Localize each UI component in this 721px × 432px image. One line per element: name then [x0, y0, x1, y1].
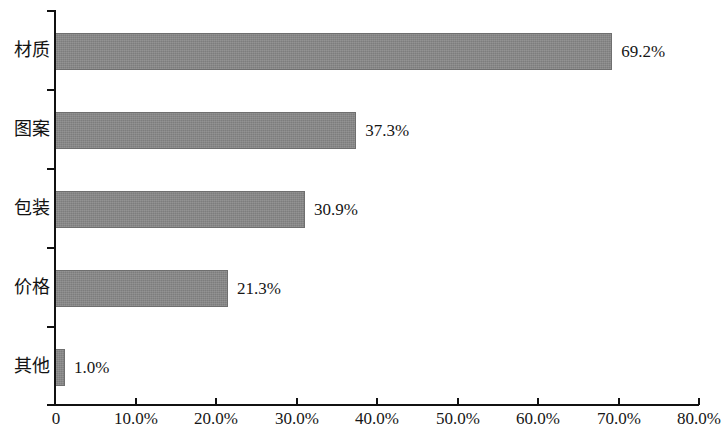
- category-label-1: 图案: [0, 120, 50, 138]
- bar-value-3: 21.3%: [237, 280, 281, 297]
- x-axis-label-8: 80.0%: [677, 410, 721, 427]
- x-axis-label-5: 50.0%: [436, 410, 480, 427]
- bar-4[interactable]: [56, 349, 65, 386]
- x-axis-label-4: 40.0%: [355, 410, 399, 427]
- y-axis-tick: [47, 10, 55, 12]
- x-axis-tick: [698, 398, 700, 405]
- x-axis-label-6: 60.0%: [516, 410, 560, 427]
- bar-3[interactable]: [56, 270, 228, 307]
- x-axis-tick: [296, 398, 298, 405]
- bar-value-4: 1.0%: [74, 359, 109, 376]
- bar-value-1: 37.3%: [365, 122, 409, 139]
- category-label-4: 其他: [0, 357, 50, 375]
- bar-1[interactable]: [56, 112, 356, 149]
- x-axis-label-3: 30.0%: [275, 410, 319, 427]
- bar-value-0: 69.2%: [621, 43, 665, 60]
- x-axis-tick: [54, 398, 56, 405]
- x-axis-tick: [457, 398, 459, 405]
- y-axis-tick: [47, 326, 55, 328]
- bar-0[interactable]: [56, 33, 612, 70]
- x-axis-tick: [537, 398, 539, 405]
- y-axis-tick: [47, 89, 55, 91]
- bar-2[interactable]: [56, 191, 305, 228]
- x-axis-label-7: 70.0%: [597, 410, 641, 427]
- bar-value-2: 30.9%: [314, 201, 358, 218]
- x-axis-label-0: 0: [52, 410, 61, 427]
- x-axis-tick: [135, 398, 137, 405]
- category-label-3: 价格: [0, 278, 50, 296]
- x-axis-label-2: 20.0%: [194, 410, 238, 427]
- y-axis-tick: [47, 168, 55, 170]
- x-axis-label-1: 10.0%: [114, 410, 158, 427]
- x-axis-tick: [618, 398, 620, 405]
- x-axis-tick: [215, 398, 217, 405]
- x-axis-tick: [376, 398, 378, 405]
- category-label-0: 材质: [0, 41, 50, 59]
- y-axis-tick: [47, 247, 55, 249]
- category-label-2: 包装: [0, 199, 50, 217]
